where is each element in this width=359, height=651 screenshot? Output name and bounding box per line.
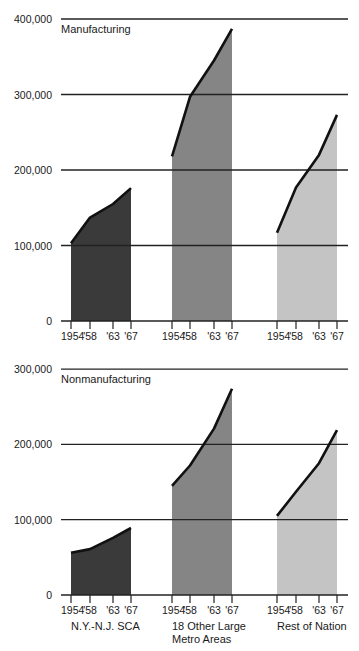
y-tick-label-manufacturing: 0 (46, 315, 52, 327)
x-tick-label: 1954 (61, 330, 85, 342)
area-nonmanufacturing-series-0 (71, 528, 131, 595)
x-tick-label: '67 (225, 330, 239, 342)
x-tick-label: '67 (225, 604, 239, 616)
x-tick-label: '58 (83, 604, 97, 616)
manufacturing-panel: 0100,000200,000300,000400,0001954'58'63'… (14, 13, 348, 342)
area-chart: 0100,000200,000300,000400,0001954'58'63'… (0, 0, 359, 651)
area-manufacturing-series-0 (71, 188, 131, 321)
y-tick-label-manufacturing: 300,000 (14, 89, 52, 101)
x-tick-label: 1954 (162, 330, 186, 342)
x-tick-label: '63 (207, 604, 221, 616)
x-tick-label: '67 (330, 330, 344, 342)
area-manufacturing-series-2 (277, 115, 337, 321)
x-tick-label: 1954 (162, 604, 186, 616)
area-manufacturing-series-1 (172, 29, 232, 321)
group-label-other-metro: 18 Other Large (172, 620, 246, 632)
x-tick-label: '58 (289, 604, 303, 616)
group-label-rest-of-nation: Rest of Nation (277, 620, 347, 632)
x-tick-label: '58 (183, 330, 197, 342)
group-labels: N.Y.-N.J. SCA 18 Other Large Metro Areas… (71, 620, 347, 645)
nonmanufacturing-panel: 0100,000200,000300,0001954'58'63'671954'… (14, 363, 348, 616)
y-tick-label-nonmanufacturing: 100,000 (14, 514, 52, 526)
x-tick-label: '58 (183, 604, 197, 616)
x-tick-label: '63 (312, 330, 326, 342)
x-tick-label: '63 (312, 604, 326, 616)
group-label-ny-nj: N.Y.-N.J. SCA (71, 620, 141, 632)
x-tick-label: '67 (124, 604, 138, 616)
panel-title-nonmanufacturing: Nonmanufacturing (61, 373, 151, 385)
x-tick-label: '67 (124, 330, 138, 342)
y-tick-label-nonmanufacturing: 0 (46, 589, 52, 601)
area-nonmanufacturing-series-1 (172, 389, 232, 595)
x-tick-label: 1954 (267, 330, 291, 342)
y-tick-label-nonmanufacturing: 300,000 (14, 363, 52, 375)
y-tick-label-nonmanufacturing: 200,000 (14, 438, 52, 450)
x-tick-label: '58 (83, 330, 97, 342)
area-nonmanufacturing-series-2 (277, 430, 337, 595)
x-tick-label: 1954 (267, 604, 291, 616)
x-tick-label: '63 (106, 604, 120, 616)
y-tick-label-manufacturing: 100,000 (14, 240, 52, 252)
panel-title-manufacturing: Manufacturing (61, 23, 131, 35)
x-tick-label: '63 (207, 330, 221, 342)
x-tick-label: '67 (330, 604, 344, 616)
x-tick-label: '63 (106, 330, 120, 342)
y-tick-label-manufacturing: 200,000 (14, 164, 52, 176)
y-tick-label-manufacturing: 400,000 (14, 13, 52, 25)
x-tick-label: '58 (289, 330, 303, 342)
group-label-other-metro-2: Metro Areas (172, 633, 232, 645)
x-tick-label: 1954 (61, 604, 85, 616)
